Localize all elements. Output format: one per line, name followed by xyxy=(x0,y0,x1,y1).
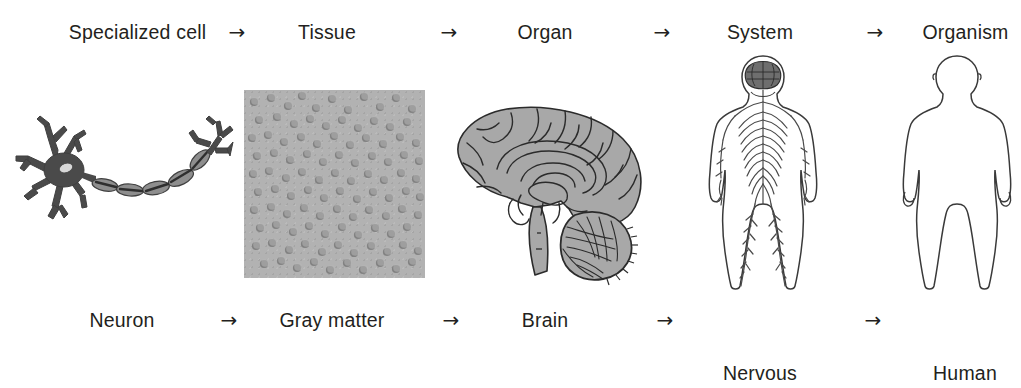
gray-matter-illustration xyxy=(244,90,425,278)
organization-diagram: Specialized cell → Tissue → Organ → Syst… xyxy=(0,0,1021,388)
neuron-illustration xyxy=(4,112,234,224)
bottom-label-human-body: Human Body xyxy=(905,308,1021,388)
top-label-organ: Organ xyxy=(490,20,600,45)
bottom-label-brain: Brain xyxy=(490,308,600,333)
arrow-top-1: → xyxy=(214,20,260,45)
arrow-top-3: → xyxy=(639,20,685,45)
bottom-label-gray-matter: Gray matter xyxy=(262,308,402,333)
bottom-label-human-body-line1: Human xyxy=(905,360,1021,386)
top-label-specialized-cell: Specialized cell xyxy=(45,20,230,45)
arrow-top-4: → xyxy=(852,20,898,45)
nervous-system-illustration xyxy=(699,52,827,292)
brain-illustration xyxy=(437,103,653,293)
arrow-top-2: → xyxy=(426,20,472,45)
top-label-organism: Organism xyxy=(903,20,1021,45)
arrow-bottom-4: → xyxy=(850,308,896,333)
top-label-system: System xyxy=(700,20,820,45)
bottom-label-nervous-system: Nervous System xyxy=(700,308,820,388)
top-label-tissue: Tissue xyxy=(272,20,382,45)
arrow-bottom-2: → xyxy=(428,308,474,333)
human-body-illustration xyxy=(893,52,1021,292)
bottom-label-nervous-system-line1: Nervous xyxy=(700,360,820,386)
arrow-bottom-3: → xyxy=(642,308,688,333)
bottom-label-neuron: Neuron xyxy=(62,308,182,333)
arrow-bottom-1: → xyxy=(206,308,252,333)
tissue-cells xyxy=(244,90,425,278)
